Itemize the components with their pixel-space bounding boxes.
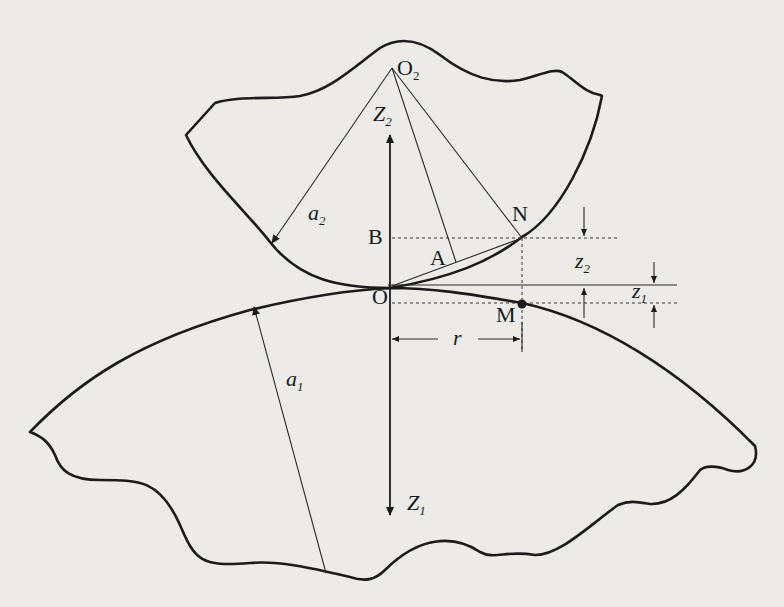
label-a: A — [430, 245, 446, 270]
upper-body-outline — [186, 41, 602, 288]
point-m-dot — [518, 300, 527, 309]
label-a2: a2 — [308, 200, 326, 228]
a2-radius-arrow — [272, 68, 392, 243]
label-n: N — [512, 201, 528, 226]
label-z1-gap: z1 — [631, 278, 647, 306]
label-o: O — [372, 284, 388, 309]
label-z2-axis: Z2 — [373, 101, 392, 129]
label-z1-axis: Z1 — [407, 490, 426, 518]
contact-geometry-diagram: O2 Z2 a2 B N A O M r z2 z1 a1 Z1 — [0, 0, 784, 607]
chord-on-line — [392, 238, 522, 286]
o2-n-line — [392, 68, 522, 238]
o2-a-line — [392, 68, 456, 262]
label-m: M — [496, 302, 516, 327]
a1-radius-arrow — [254, 307, 326, 573]
label-z2-gap: z2 — [574, 248, 591, 276]
label-r: r — [453, 325, 462, 350]
diagram-canvas: O2 Z2 a2 B N A O M r z2 z1 a1 Z1 — [0, 0, 784, 607]
lower-body-outline — [30, 288, 756, 580]
label-a1: a1 — [286, 366, 304, 394]
label-b: B — [368, 224, 383, 249]
label-o2: O2 — [397, 55, 419, 83]
